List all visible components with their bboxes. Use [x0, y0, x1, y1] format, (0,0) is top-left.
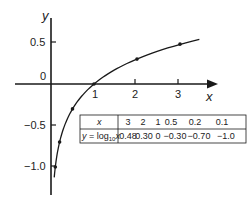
- table-x-header: x: [96, 117, 102, 127]
- data-point: [178, 42, 182, 46]
- value-table: x y = log10x 3210.50.20.1 0.480.300−0.30…: [80, 115, 246, 143]
- y-tick-label-neg-0.5: −0.5: [24, 119, 46, 131]
- table-y-cell: −0.70: [188, 131, 211, 141]
- data-point: [71, 107, 75, 111]
- origin-label: 0: [40, 70, 46, 82]
- y-axis-label: y: [41, 8, 50, 23]
- table-y-cell: 0.30: [135, 131, 153, 141]
- table-x-cell: 2: [140, 117, 145, 127]
- table-x-cell: 0.1: [216, 117, 229, 127]
- table-x-cell: 3: [125, 117, 130, 127]
- x-tick-label-2: 2: [132, 88, 138, 100]
- table-y-values: 0.480.300−0.30−0.70−1.0: [119, 131, 235, 141]
- x-axis-label: x: [205, 89, 213, 104]
- x-tick-label-3: 3: [175, 88, 181, 100]
- data-point: [54, 165, 58, 169]
- table-y-cell: 0.48: [119, 131, 137, 141]
- data-points: [54, 42, 182, 168]
- data-point: [92, 82, 96, 86]
- table-y-cell: −0.30: [164, 131, 187, 141]
- data-point: [58, 140, 62, 144]
- table-x-cell: 0.2: [189, 117, 202, 127]
- table-y-cell: 0: [155, 131, 160, 141]
- table-x-cell: 1: [155, 117, 160, 127]
- log-function-chart: y x 0.5 0 −0.5 −1.0 1 2 3 x y = log10x 3…: [0, 0, 249, 209]
- data-point: [135, 57, 139, 61]
- table-x-cell: 0.5: [165, 117, 178, 127]
- y-tick-label-neg-1.0: −1.0: [24, 160, 46, 172]
- table-y-cell: −1.0: [217, 131, 235, 141]
- x-axis-arrowhead-icon: [207, 80, 218, 89]
- log-curve: [54, 39, 199, 177]
- y-tick-label-0.5: 0.5: [30, 36, 45, 48]
- table-y-header: y = log10x: [81, 131, 120, 142]
- x-tick-label-1: 1: [92, 88, 98, 100]
